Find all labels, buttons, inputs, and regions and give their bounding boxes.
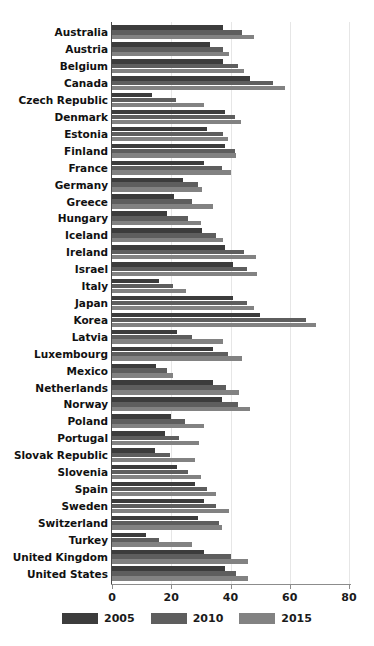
bar-2005 xyxy=(112,465,177,469)
bar-2005 xyxy=(112,161,204,165)
bar-2010 xyxy=(112,47,223,51)
bar-2005 xyxy=(112,110,225,114)
category-label: Iceland xyxy=(65,230,108,241)
bar-2010 xyxy=(112,504,216,508)
category-label: United States xyxy=(27,569,108,580)
x-tick-label: 80 xyxy=(341,591,356,604)
bar-2005 xyxy=(112,414,171,418)
chart-category-row: Iceland xyxy=(0,228,374,242)
category-label: Italy xyxy=(82,281,108,292)
category-label: Sweden xyxy=(62,501,109,512)
bar-2015 xyxy=(112,289,186,293)
bar-2015 xyxy=(112,559,248,563)
bar-2010 xyxy=(112,402,238,406)
chart-category-row: Czech Republic xyxy=(0,93,374,107)
category-label: Hungary xyxy=(58,213,108,224)
bar-2015 xyxy=(112,407,250,411)
bar-2005 xyxy=(112,59,223,63)
category-label: Luxembourg xyxy=(34,349,108,360)
bar-2010 xyxy=(112,182,198,186)
chart-category-row: Sweden xyxy=(0,499,374,513)
bar-2015 xyxy=(112,339,223,343)
bar-2010 xyxy=(112,368,167,372)
bar-2005 xyxy=(112,211,167,215)
legend-item-2015[interactable]: 2015 xyxy=(239,612,312,625)
bar-2010 xyxy=(112,115,235,119)
category-label: Slovenia xyxy=(57,467,108,478)
chart-category-row: Portugal xyxy=(0,431,374,445)
bar-2015 xyxy=(112,170,231,174)
bar-2010 xyxy=(112,267,247,271)
bar-2010 xyxy=(112,352,228,356)
bar-2005 xyxy=(112,178,183,182)
bar-2010 xyxy=(112,284,173,288)
legend-label-2015: 2015 xyxy=(281,612,312,625)
x-tick-mark xyxy=(231,584,232,589)
chart-category-row: Ireland xyxy=(0,245,374,259)
chart-category-row: Mexico xyxy=(0,364,374,378)
chart-category-row: Latvia xyxy=(0,330,374,344)
bar-2005 xyxy=(112,25,223,29)
chart-category-row: Norway xyxy=(0,397,374,411)
chart-category-row: Spain xyxy=(0,482,374,496)
chart-category-row: Australia xyxy=(0,25,374,39)
chart-category-row: Poland xyxy=(0,414,374,428)
bar-2010 xyxy=(112,470,188,474)
bar-2010 xyxy=(112,538,159,542)
bar-2015 xyxy=(112,255,256,259)
x-tick-label: 60 xyxy=(282,591,297,604)
bar-2015 xyxy=(112,306,254,310)
bar-2015 xyxy=(112,356,242,360)
x-tick-label: 0 xyxy=(108,591,116,604)
chart-category-row: Hungary xyxy=(0,211,374,225)
bar-2010 xyxy=(112,166,222,170)
legend-swatch-2015 xyxy=(239,613,275,624)
bar-2005 xyxy=(112,347,213,351)
chart-category-row: France xyxy=(0,161,374,175)
bar-2005 xyxy=(112,380,213,384)
bar-2005 xyxy=(112,550,204,554)
category-label: Norway xyxy=(64,399,109,410)
chart-category-row: Korea xyxy=(0,313,374,327)
legend-item-2010[interactable]: 2010 xyxy=(151,612,224,625)
bar-2010 xyxy=(112,98,176,102)
bar-2010 xyxy=(112,385,226,389)
bar-2005 xyxy=(112,397,222,401)
chart-category-row: Switzerland xyxy=(0,516,374,530)
bar-2010 xyxy=(112,149,235,153)
chart-category-row: Israel xyxy=(0,262,374,276)
bar-2010 xyxy=(112,199,192,203)
bar-2005 xyxy=(112,533,146,537)
category-label: France xyxy=(68,163,108,174)
bar-2005 xyxy=(112,364,156,368)
bar-2015 xyxy=(112,187,202,191)
bar-2005 xyxy=(112,194,174,198)
bar-2015 xyxy=(112,103,204,107)
bar-2005 xyxy=(112,93,152,97)
bar-2010 xyxy=(112,233,216,237)
chart-category-row: Netherlands xyxy=(0,380,374,394)
category-label: Estonia xyxy=(64,129,108,140)
chart-category-row: Finland xyxy=(0,144,374,158)
bar-2015 xyxy=(112,509,229,513)
legend-swatch-2010 xyxy=(151,613,187,624)
category-label: Netherlands xyxy=(35,383,108,394)
chart-legend: 2005 2010 2015 xyxy=(0,612,374,625)
legend-item-2005[interactable]: 2005 xyxy=(62,612,135,625)
category-label: Belgium xyxy=(60,61,108,72)
bar-2015 xyxy=(112,86,285,90)
bar-2010 xyxy=(112,64,238,68)
category-label: Korea xyxy=(73,315,108,326)
bar-2015 xyxy=(112,69,244,73)
category-label: Czech Republic xyxy=(19,95,108,106)
legend-swatch-2005 xyxy=(62,613,98,624)
bar-2010 xyxy=(112,436,179,440)
category-label: Latvia xyxy=(72,332,108,343)
category-label: Finland xyxy=(64,146,108,157)
x-tick-mark xyxy=(171,584,172,589)
chart-category-row: Luxembourg xyxy=(0,347,374,361)
bar-2010 xyxy=(112,132,223,136)
bar-2015 xyxy=(112,542,192,546)
category-label: Austria xyxy=(65,44,108,55)
bar-2010 xyxy=(112,419,185,423)
